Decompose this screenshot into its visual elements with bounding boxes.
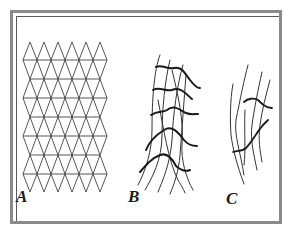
panel-b-lattice (138, 55, 200, 194)
panel-label-a: A (16, 188, 27, 205)
panel-label-c: C (226, 190, 237, 207)
lattice-figure (0, 0, 288, 232)
panel-c-lattice (230, 65, 272, 184)
panel-label-b: B (128, 188, 139, 205)
panel-a-lattice (23, 42, 107, 192)
